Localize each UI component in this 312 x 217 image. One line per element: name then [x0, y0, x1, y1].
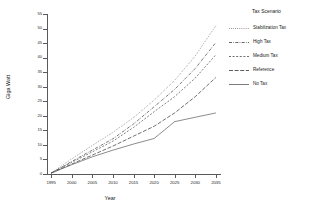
y-axis-tick-label: 50: [22, 26, 42, 30]
x-axis-tick: [51, 174, 52, 178]
y-axis-tick-label: 25: [22, 99, 42, 103]
series-line: [51, 26, 216, 173]
x-axis-tick: [134, 174, 135, 178]
y-axis-label-wrap: 5: [18, 157, 42, 162]
legend-title: Tax Scenario: [252, 8, 311, 14]
x-axis-title: Year: [0, 195, 220, 201]
y-axis-label-wrap: 25: [18, 99, 42, 104]
legend-item[interactable]: Reference: [229, 62, 311, 76]
y-axis-label-wrap: 15: [18, 128, 42, 133]
legend-item-label: High Tax: [253, 39, 271, 44]
x-axis-tick: [216, 174, 217, 178]
legend-item-label: No Tax: [253, 81, 267, 86]
y-axis-tick: [43, 174, 47, 175]
series-lines: [47, 14, 220, 174]
legend: Tax Scenario Stabilization TaxHigh TaxMe…: [229, 8, 311, 90]
x-axis-tick: [154, 174, 155, 178]
y-axis-tick-label: 55: [22, 12, 42, 16]
legend-item[interactable]: Stabilization Tax: [229, 20, 311, 34]
x-axis-tick-label: 2035: [203, 180, 229, 185]
legend-item[interactable]: No Tax: [229, 76, 311, 90]
y-axis-tick-label: 35: [22, 70, 42, 74]
x-axis-tick: [175, 174, 176, 178]
series-line: [51, 55, 216, 173]
plot-area: [47, 14, 220, 174]
series-line: [51, 77, 216, 173]
y-axis-label-wrap: 30: [18, 85, 42, 90]
legend-item-label: Reference: [253, 67, 274, 72]
y-axis-label-wrap: 10: [18, 143, 42, 148]
y-axis-tick-label: 5: [22, 157, 42, 161]
y-axis-tick-label: 10: [22, 143, 42, 147]
x-axis-tick: [113, 174, 114, 178]
legend-line-swatch: [229, 83, 249, 84]
y-axis-label-wrap: 35: [18, 70, 42, 75]
y-axis-label-wrap: 40: [18, 55, 42, 60]
legend-line-swatch: [229, 55, 249, 56]
x-axis-tick: [92, 174, 93, 178]
y-axis-label-wrap: 45: [18, 41, 42, 46]
y-axis-tick-label: 30: [22, 85, 42, 89]
series-line: [51, 113, 216, 173]
y-axis-tick-label: 45: [22, 41, 42, 45]
y-axis-tick-label: 15: [22, 128, 42, 132]
y-axis-tick-label: 20: [22, 114, 42, 118]
y-axis-label-wrap: 0: [18, 172, 42, 177]
legend-item-label: Medium Tax: [253, 53, 278, 58]
legend-item[interactable]: High Tax: [229, 34, 311, 48]
legend-item[interactable]: Medium Tax: [229, 48, 311, 62]
y-axis-title: Giga Watt: [5, 57, 11, 117]
y-axis-label-wrap: 55: [18, 12, 42, 17]
x-axis-tick: [72, 174, 73, 178]
y-axis-label-wrap: 20: [18, 114, 42, 119]
y-axis-tick-label: 40: [22, 55, 42, 59]
series-line: [51, 43, 216, 174]
legend-line-swatch: [229, 27, 249, 28]
x-axis-tick: [195, 174, 196, 178]
legend-line-swatch: [229, 69, 249, 70]
y-axis-label-wrap: 50: [18, 26, 42, 31]
legend-items: Stabilization TaxHigh TaxMedium TaxRefer…: [229, 20, 311, 90]
y-axis-tick-label: 0: [22, 172, 42, 176]
legend-line-swatch: [229, 41, 249, 42]
chart-screenshot: 0510152025303540455055 19952000200520102…: [0, 0, 312, 217]
legend-item-label: Stabilization Tax: [253, 25, 286, 30]
